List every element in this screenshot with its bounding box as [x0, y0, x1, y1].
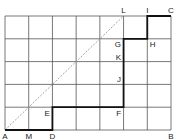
point-label-j: J	[117, 75, 121, 84]
point-label-f: F	[116, 109, 121, 118]
point-label-d: D	[50, 132, 56, 140]
lattice-path-diagram: AMDBEFJKGHLIC	[0, 0, 176, 140]
diagonal-dashed-line	[5, 16, 124, 130]
grid	[5, 16, 171, 130]
staircase-path	[5, 16, 171, 130]
point-label-k: K	[116, 53, 122, 62]
point-label-l: L	[121, 6, 126, 15]
point-label-e: E	[45, 109, 50, 118]
diagonal-line	[5, 16, 124, 130]
point-label-h: H	[150, 40, 156, 49]
point-label-a: A	[2, 132, 8, 140]
point-label-g: G	[115, 40, 121, 49]
point-labels: AMDBEFJKGHLIC	[2, 6, 174, 140]
path-polyline	[5, 16, 171, 130]
point-label-b: B	[168, 132, 173, 140]
point-label-i: I	[146, 6, 148, 15]
point-label-m: M	[25, 132, 32, 140]
point-label-c: C	[168, 6, 174, 15]
